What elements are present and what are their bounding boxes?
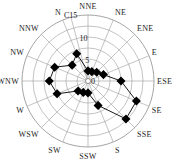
direction-label: NNE	[79, 2, 96, 11]
wind-rose-chart: 0510C15NNENEENEEESESESSESSSWSWWSWWWNWNWN…	[0, 0, 172, 159]
data-line	[49, 54, 136, 119]
radar-plot: 0510C15NNENEENEEESESESSESSSWSWWSWWWNWNWN…	[0, 0, 172, 159]
direction-label: N	[55, 8, 61, 17]
data-marker	[53, 89, 62, 98]
radial-tick-label: 10	[80, 34, 88, 43]
direction-label: SW	[48, 146, 61, 155]
radial-tick-label: 0	[91, 77, 95, 86]
direction-label: ENE	[137, 24, 153, 33]
direction-label: NE	[115, 8, 126, 17]
radial-tick-label: C15	[64, 11, 77, 20]
grid-spoke	[41, 81, 88, 128]
direction-label: WSW	[18, 130, 39, 139]
radial-tick-label: 5	[85, 56, 89, 65]
center-marker	[86, 79, 91, 84]
direction-label: SSW	[79, 152, 96, 159]
data-marker	[116, 76, 125, 85]
direction-label: SSE	[137, 130, 152, 139]
data-marker	[45, 76, 54, 85]
direction-label: NW	[10, 48, 24, 57]
direction-label: WNW	[0, 77, 19, 86]
direction-label: ESE	[157, 77, 172, 86]
direction-label: SE	[152, 106, 162, 115]
data-marker	[50, 63, 59, 72]
direction-label: E	[152, 48, 157, 57]
data-marker	[94, 101, 103, 110]
data-marker	[132, 97, 141, 106]
direction-label: S	[115, 146, 120, 155]
direction-label: W	[16, 106, 24, 115]
direction-label: NNW	[19, 24, 39, 33]
